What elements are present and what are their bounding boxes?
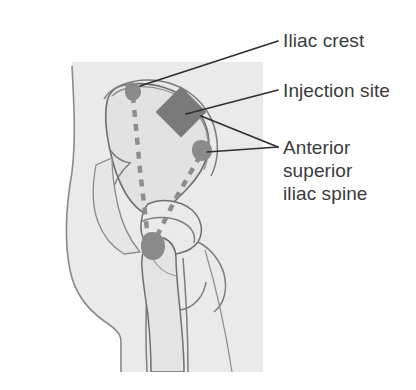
greater-trochanter-marker [141, 232, 165, 260]
asis-marker [192, 140, 212, 161]
label-iliac-crest: Iliac crest [283, 29, 364, 52]
label-anterior-superior-iliac-spine: Anterior superior iliac spine [283, 136, 368, 205]
label-injection-site: Injection site [283, 79, 390, 102]
anatomy-diagram: Iliac crest Injection site Anterior supe… [0, 0, 416, 390]
